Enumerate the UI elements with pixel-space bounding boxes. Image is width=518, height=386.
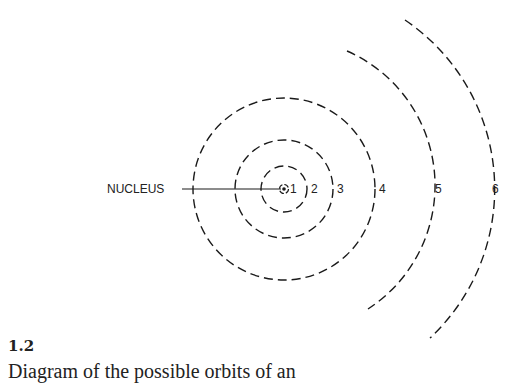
- nucleus-label: NUCLEUS: [107, 182, 164, 196]
- nucleus-dot: [282, 187, 286, 191]
- orbit-label-6: 6: [492, 182, 499, 196]
- orbit-label-3: 3: [337, 182, 344, 196]
- orbit-diagram: NUCLEUS 1 2 3 4 5 6: [0, 0, 518, 386]
- orbit-label-1: 1: [290, 182, 297, 196]
- orbit-6: [405, 20, 495, 338]
- figure-caption: Diagram of the possible orbits of an: [8, 360, 296, 383]
- orbit-label-2: 2: [311, 182, 318, 196]
- orbit-label-4: 4: [379, 182, 386, 196]
- figure-number: 1.2: [8, 337, 34, 355]
- orbit-5: [347, 51, 435, 309]
- orbit-label-5: 5: [435, 182, 442, 196]
